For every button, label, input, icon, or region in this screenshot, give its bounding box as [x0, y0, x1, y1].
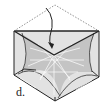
- paper-body: [14, 31, 99, 101]
- step-label: d.: [16, 85, 25, 100]
- valley-fold-line: [14, 5, 99, 31]
